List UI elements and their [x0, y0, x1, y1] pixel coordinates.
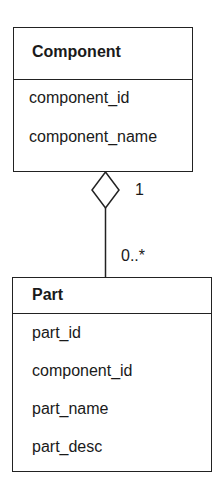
- aggregation-diamond-icon: [92, 172, 119, 208]
- attribute: component_id: [29, 89, 130, 107]
- class-name: Component: [14, 28, 192, 80]
- class-name: Part: [13, 278, 211, 314]
- class-part: Part part_id component_id part_name part…: [12, 277, 212, 472]
- attribute: component_id: [32, 362, 133, 380]
- attribute: part_id: [32, 324, 81, 342]
- attribute: part_desc: [32, 438, 102, 456]
- class-component: Component component_id component_name: [13, 27, 193, 172]
- multiplicity-part: 0..*: [121, 247, 145, 265]
- attribute: part_name: [32, 400, 109, 418]
- multiplicity-whole: 1: [135, 181, 144, 199]
- attribute: component_name: [29, 128, 157, 146]
